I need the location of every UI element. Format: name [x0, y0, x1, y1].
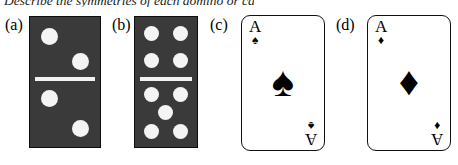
spade-icon: ♠ [252, 34, 258, 46]
card-rank: A [305, 131, 317, 147]
item-label-c: (c) [210, 17, 228, 33]
card-rank: A [431, 131, 443, 147]
spade-icon: ♠ [308, 120, 314, 132]
domino-pip [41, 28, 58, 45]
domino-pip [72, 120, 89, 137]
card-corner-bottom-right: A ♦ [431, 120, 443, 147]
domino-a [29, 16, 101, 148]
spade-icon: ♠ [272, 59, 294, 105]
diamond-icon: ♦ [434, 120, 440, 132]
card-ace-of-diamonds: A ♦ ♦ A ♦ [367, 15, 451, 151]
item-label-b: (b) [112, 17, 131, 33]
domino-divider [140, 77, 192, 81]
domino-pip [173, 124, 188, 139]
card-corner-top-left: A ♠ [249, 19, 261, 46]
domino-pip [72, 53, 89, 70]
prompt-text: Describe the symmetries of each domino o… [4, 0, 254, 7]
diamond-icon: ♦ [378, 34, 384, 46]
domino-pip [173, 87, 188, 102]
card-corner-top-left: A ♦ [375, 19, 387, 46]
domino-pip [158, 105, 173, 120]
card-ace-of-spades: A ♠ ♠ A ♠ [241, 15, 325, 151]
domino-b [134, 16, 198, 148]
domino-pip [41, 90, 58, 107]
item-label-a: (a) [5, 17, 23, 33]
card-center-suit: ♠ [242, 61, 324, 103]
card-corner-bottom-right: A ♠ [305, 120, 317, 147]
domino-pip [144, 53, 159, 68]
card-center-suit: ♦ [368, 62, 450, 102]
domino-pip [144, 124, 159, 139]
domino-pip [144, 87, 159, 102]
domino-divider [35, 77, 95, 81]
item-label-d: (d) [336, 17, 355, 33]
diamond-icon: ♦ [399, 59, 419, 104]
domino-pip [144, 26, 159, 41]
domino-pip [173, 53, 188, 68]
domino-pip [173, 26, 188, 41]
